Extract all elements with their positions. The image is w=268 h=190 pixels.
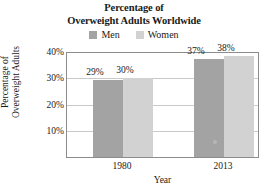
y-axis-ticks: 40% 30% 20% 10% (26, 52, 64, 158)
bar-value-1980-women: 30% (108, 65, 142, 75)
x-tick-label-2013: 2013 (193, 161, 253, 171)
y-tick-label-10: 10% (30, 126, 64, 136)
bar-value-2013-men: 37% (179, 46, 213, 56)
x-axis-title: Year (66, 175, 259, 185)
legend-swatch-men-icon (89, 31, 97, 39)
y-tick-label-40: 40% (30, 47, 64, 57)
bar-chart: Percentage of Overweight Adults Worldwid… (0, 0, 268, 190)
y-tick-label-30: 30% (30, 73, 64, 83)
y-tick-label-20: 20% (30, 100, 64, 110)
y-axis-title-line-2: Overweight Adults (11, 12, 22, 152)
legend-item-women: Women (136, 30, 179, 40)
bar-1980-women[interactable] (123, 78, 153, 158)
scan-speck (213, 140, 217, 144)
x-tick-label-1980: 1980 (92, 161, 152, 171)
y-axis-title-line-1: Percentage of (0, 12, 11, 152)
bar-2013-men[interactable] (194, 59, 224, 157)
legend-label-men: Men (101, 30, 119, 40)
legend-label-women: Women (148, 30, 179, 40)
legend-item-men: Men (89, 30, 119, 40)
bar-value-2013-women: 38% (209, 43, 243, 53)
bar-value-1980-men: 29% (78, 67, 112, 77)
legend-swatch-women-icon (136, 31, 144, 39)
bar-1980-men[interactable] (93, 80, 123, 157)
bar-2013-women[interactable] (224, 56, 254, 157)
